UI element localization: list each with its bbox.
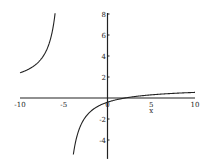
x-tick-label: -10 (14, 101, 25, 109)
y-tick-label: 2 (102, 74, 106, 82)
function-plot: -10-50510x8642-2-4 (0, 0, 208, 163)
y-tick-label: -2 (99, 116, 106, 124)
y-tick-label: 6 (102, 32, 107, 40)
y-tick-label: 4 (102, 53, 107, 61)
x-tick-label: 10 (191, 101, 200, 109)
curve-right-branch (73, 92, 195, 154)
y-tick-label: -4 (99, 137, 106, 145)
curve-left-branch (20, 13, 55, 73)
x-axis-label: x (149, 107, 153, 115)
x-tick-label: -5 (60, 101, 67, 109)
y-tick-label: 8 (102, 11, 106, 19)
